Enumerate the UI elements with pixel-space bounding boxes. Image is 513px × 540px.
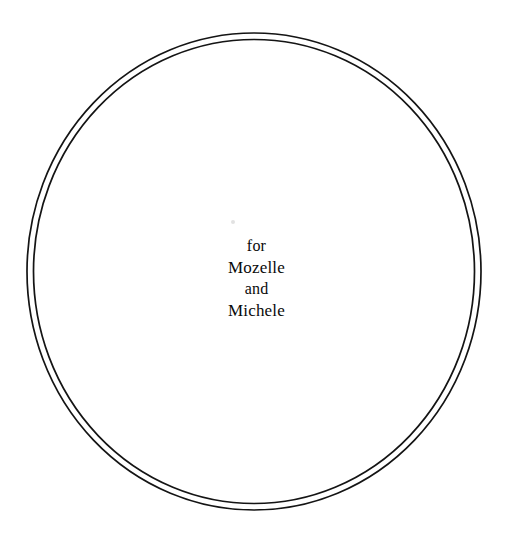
dedication-line-2: Mozelle — [0, 257, 513, 279]
dedication-text-block: for Mozelle and Michele — [0, 236, 513, 322]
dedication-line-1: for — [0, 236, 513, 257]
dedication-line-4: Michele — [0, 300, 513, 322]
dedication-line-3: and — [0, 279, 513, 300]
dedication-page: for Mozelle and Michele — [0, 0, 513, 540]
scan-speck — [231, 220, 235, 224]
